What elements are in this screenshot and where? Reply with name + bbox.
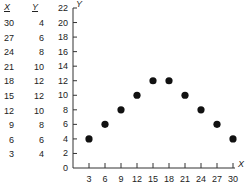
x-tick-label: 12 <box>132 174 142 184</box>
y-tick-label: 14 <box>58 61 68 71</box>
y-tick-label: 18 <box>58 32 68 42</box>
y-tick-label: 10 <box>58 90 68 100</box>
data-point <box>213 121 220 128</box>
data-point <box>117 106 124 113</box>
x-tick-label: 30 <box>228 174 238 184</box>
x-tick-label: 9 <box>118 174 123 184</box>
data-point <box>149 77 156 84</box>
y-tick-label: 20 <box>58 18 68 28</box>
data-point <box>101 121 108 128</box>
data-point <box>197 106 204 113</box>
data-point <box>133 92 140 99</box>
data-point <box>85 135 92 142</box>
scatter-chart: 024681012141618202236912151821242730XY <box>0 0 247 195</box>
x-tick-label: 27 <box>212 174 222 184</box>
y-tick-label: 16 <box>58 47 68 57</box>
x-axis-label: X <box>237 159 245 169</box>
data-point <box>181 92 188 99</box>
x-tick-label: 3 <box>86 174 91 184</box>
x-tick-label: 21 <box>180 174 190 184</box>
y-tick-label: 12 <box>58 76 68 86</box>
x-tick-label: 15 <box>148 174 158 184</box>
data-point <box>165 77 172 84</box>
y-tick-label: 4 <box>63 134 68 144</box>
x-tick-label: 18 <box>164 174 174 184</box>
data-point <box>229 135 236 142</box>
x-tick-label: 6 <box>102 174 107 184</box>
x-tick-label: 24 <box>196 174 206 184</box>
y-tick-label: 0 <box>63 163 68 173</box>
y-axis-label: Y <box>76 0 83 9</box>
y-tick-label: 6 <box>63 119 68 129</box>
y-tick-label: 8 <box>63 105 68 115</box>
y-tick-label: 22 <box>58 3 68 13</box>
y-tick-label: 2 <box>63 148 68 158</box>
